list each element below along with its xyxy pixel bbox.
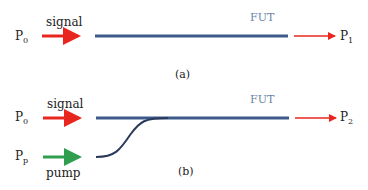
fiber-diagram: P0 signal FUT P1 (a) P0 signal FUT P2 Pp… bbox=[0, 0, 368, 190]
pump-power-label: Pp bbox=[15, 150, 28, 165]
fut-label-a: FUT bbox=[250, 12, 274, 23]
caption-a: (a) bbox=[175, 69, 190, 80]
output-power-label-b: P2 bbox=[340, 111, 353, 126]
caption-b: (b) bbox=[178, 166, 194, 177]
signal-label-b: signal bbox=[47, 98, 83, 110]
output-power-label-a: P1 bbox=[340, 30, 353, 45]
panel-b bbox=[43, 118, 336, 157]
fut-label-b: FUT bbox=[250, 94, 274, 105]
signal-label-a: signal bbox=[46, 16, 82, 28]
input-power-label-a: P0 bbox=[15, 30, 28, 45]
input-power-label-b: P0 bbox=[15, 111, 28, 126]
pump-label: pump bbox=[46, 167, 80, 179]
pump-coupler bbox=[96, 118, 168, 157]
